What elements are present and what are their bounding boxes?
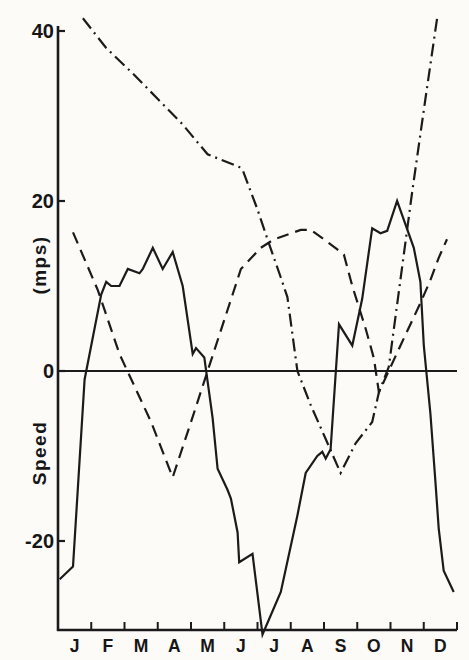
x-month-label-1: J [70,636,80,656]
x-month-label-10: O [367,636,381,656]
y-tick-label-20: 20 [32,190,54,212]
x-month-label-3: M [134,636,149,656]
x-month-label-12: D [434,636,447,656]
wind-speed-chart-canvas: 40200-20JFMAMJJASOND(mps)Speed [0,0,469,660]
y-tick-label-40: 40 [32,20,54,42]
y-tick-label-0: 0 [43,360,54,382]
scanned-chart-page: 40200-20JFMAMJJASOND(mps)Speed [0,0,469,660]
dash-dot-curve [83,18,437,473]
y-tick-label--20: -20 [25,530,54,552]
x-month-label-7: J [269,636,279,656]
x-month-label-6: J [236,636,246,656]
wind-speed-chart: 40200-20JFMAMJJASOND(mps)Speed [0,0,469,660]
solid-curve [60,201,454,635]
y-axis-units-label: (mps) [29,235,50,294]
x-month-label-11: N [401,636,414,656]
x-month-label-4: A [168,636,181,656]
y-axis-title: Speed [29,421,50,486]
x-month-label-9: S [335,636,347,656]
x-month-label-8: A [301,636,314,656]
x-month-label-5: M [200,636,215,656]
x-month-label-2: F [103,636,114,656]
